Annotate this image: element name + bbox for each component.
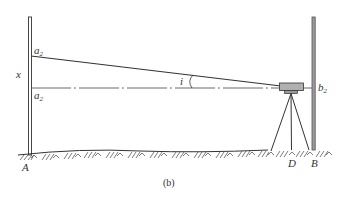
angle-arc bbox=[190, 75, 193, 88]
leveling-diagram bbox=[0, 0, 344, 200]
right-staff bbox=[312, 17, 315, 150]
level-instrument bbox=[280, 83, 304, 94]
label-a-bottom: a2 bbox=[34, 90, 43, 103]
label-point-a: A bbox=[22, 162, 29, 173]
left-staff bbox=[29, 17, 32, 155]
label-x: x bbox=[16, 69, 21, 80]
sight-line bbox=[31, 56, 281, 86]
label-b-right: b2 bbox=[318, 82, 327, 95]
figure-caption: (b) bbox=[163, 178, 175, 188]
label-angle-i: i bbox=[180, 76, 183, 87]
tripod bbox=[271, 94, 309, 152]
label-point-d: D bbox=[288, 158, 296, 169]
label-point-b: B bbox=[311, 158, 318, 169]
label-a-top: a2 bbox=[34, 45, 43, 58]
ground-hatching bbox=[20, 151, 332, 160]
